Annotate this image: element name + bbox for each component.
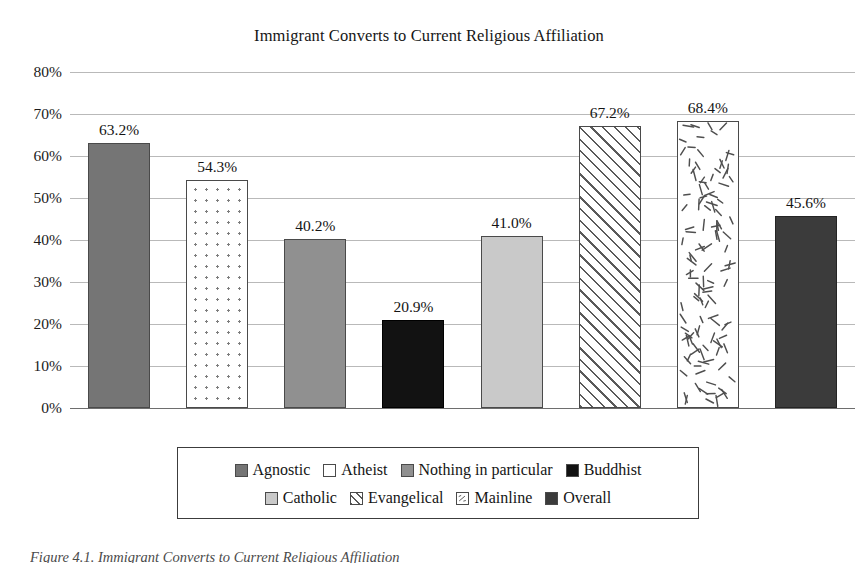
y-axis-tick-label: 50% [0, 189, 62, 207]
legend-label: Buddhist [584, 462, 642, 478]
bar-group: 54.3% [186, 72, 248, 408]
legend-swatch-icon [566, 464, 579, 477]
bar[interactable] [481, 236, 543, 408]
bar-group: 20.9% [382, 72, 444, 408]
y-axis-tick-label: 20% [0, 315, 62, 333]
bar-series: 63.2%54.3%40.2%20.9%41.0%67.2%68.4%45.6% [70, 72, 855, 408]
bar[interactable] [775, 216, 837, 408]
legend-item[interactable]: Evangelical [350, 490, 444, 506]
legend-swatch-icon [323, 464, 336, 477]
figure-container: Immigrant Converts to Current Religious … [0, 0, 858, 563]
bar-group: 68.4% [677, 72, 739, 408]
legend-row-2: CatholicEvangelicalMainlineOverall [188, 484, 688, 512]
legend-swatch-icon [265, 492, 278, 505]
legend-label: Mainline [474, 490, 532, 506]
bar-group: 40.2% [284, 72, 346, 408]
bar-group: 67.2% [579, 72, 641, 408]
legend-label: Atheist [341, 462, 387, 478]
legend-swatch-icon [401, 464, 414, 477]
bar-value-label: 41.0% [492, 214, 532, 232]
bar-value-label: 63.2% [99, 121, 139, 139]
bar-value-label: 45.6% [786, 194, 826, 212]
legend-label: Evangelical [368, 490, 444, 506]
legend-row-1: AgnosticAtheistNothing in particularBudd… [188, 456, 688, 484]
bar-value-label: 54.3% [197, 158, 237, 176]
legend-item[interactable]: Overall [545, 490, 611, 506]
chart-title: Immigrant Converts to Current Religious … [0, 26, 858, 46]
y-axis-tick-label: 0% [0, 399, 62, 417]
axis-baseline [70, 408, 855, 409]
legend-item[interactable]: Catholic [265, 490, 337, 506]
legend-item[interactable]: Mainline [456, 490, 532, 506]
y-axis-tick-label: 60% [0, 147, 62, 165]
bar-value-label: 68.4% [688, 99, 728, 117]
legend-label: Nothing in particular [419, 462, 553, 478]
y-axis: 80%70%60%50%40%30%20%10%0% [0, 72, 62, 408]
bar[interactable] [88, 143, 150, 408]
bar-group: 41.0% [481, 72, 543, 408]
legend-item[interactable]: Agnostic [235, 462, 311, 478]
bar-value-label: 67.2% [590, 104, 630, 122]
y-axis-tick-label: 40% [0, 231, 62, 249]
bar-group: 45.6% [775, 72, 837, 408]
legend-label: Agnostic [253, 462, 311, 478]
legend-swatch-icon [456, 492, 469, 505]
legend-label: Catholic [283, 490, 337, 506]
bar-value-label: 40.2% [295, 217, 335, 235]
bar[interactable] [677, 121, 739, 408]
figure-caption: Figure 4.1. Immigrant Converts to Curren… [30, 549, 730, 563]
legend-swatch-icon [235, 464, 248, 477]
legend-item[interactable]: Atheist [323, 462, 387, 478]
bar[interactable] [284, 239, 346, 408]
legend-swatch-icon [545, 492, 558, 505]
y-axis-tick-label: 70% [0, 105, 62, 123]
legend-item[interactable]: Nothing in particular [401, 462, 553, 478]
bar-value-label: 20.9% [393, 298, 433, 316]
bar[interactable] [579, 126, 641, 408]
y-axis-tick-label: 80% [0, 63, 62, 81]
legend-label: Overall [563, 490, 611, 506]
bar-group: 63.2% [88, 72, 150, 408]
y-axis-tick-label: 30% [0, 273, 62, 291]
y-axis-tick-label: 10% [0, 357, 62, 375]
legend-swatch-icon [350, 492, 363, 505]
bar[interactable] [382, 320, 444, 408]
bar[interactable] [186, 180, 248, 408]
legend-item[interactable]: Buddhist [566, 462, 642, 478]
chart-legend: AgnosticAtheistNothing in particularBudd… [177, 447, 699, 519]
